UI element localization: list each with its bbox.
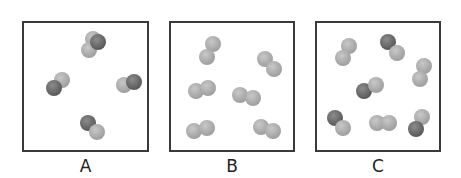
- light-atom: [199, 120, 215, 136]
- light-atom: [266, 61, 282, 77]
- light-atom: [89, 124, 105, 140]
- panel-c: [315, 21, 441, 152]
- light-atom: [265, 123, 281, 139]
- dark-atom: [90, 34, 106, 50]
- light-atom: [335, 120, 351, 136]
- light-atom: [389, 45, 405, 61]
- panel-a: [22, 21, 149, 152]
- light-atom: [335, 50, 351, 66]
- dark-atom: [46, 80, 62, 96]
- light-atom: [245, 90, 261, 106]
- light-atom: [199, 49, 215, 65]
- panel-label-a: A: [66, 156, 106, 176]
- dark-atom: [408, 121, 424, 137]
- panel-label-b: B: [212, 156, 252, 176]
- light-atom: [412, 71, 428, 87]
- panel-b: [169, 21, 295, 152]
- dark-atom: [126, 74, 142, 90]
- light-atom: [381, 115, 397, 131]
- panel-label-c: C: [358, 156, 398, 176]
- light-atom: [200, 80, 216, 96]
- light-atom: [368, 77, 384, 93]
